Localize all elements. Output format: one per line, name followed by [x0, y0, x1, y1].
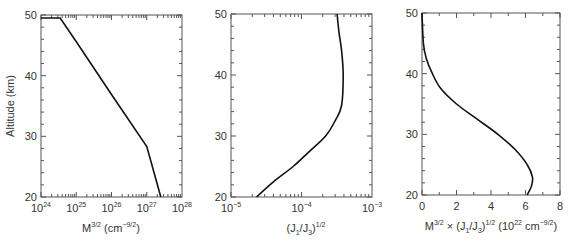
y-tick-label: 50 [406, 7, 418, 19]
panel-1-x-tick-labels: 10241025102610271028 [31, 201, 192, 214]
x-tick-label: 10−3 [362, 201, 382, 214]
x-tick-label: 0 [419, 200, 425, 212]
y-tick-label: 50 [25, 9, 37, 21]
y-axis-title: Altitude (km) [4, 75, 16, 137]
panel-2-x-axis-title: (J1/J3)1/2 [287, 221, 326, 236]
panel-3-frame [422, 13, 560, 195]
panel-3-y-tick-labels: 20304050 [406, 7, 418, 201]
panel-2-ticks [231, 14, 372, 197]
x-tick-label: 10−5 [221, 201, 241, 214]
x-tick-label: 1024 [31, 201, 51, 214]
x-tick-label: 2 [453, 200, 459, 212]
panel-1-frame [41, 15, 182, 197]
y-tick-label: 30 [25, 130, 37, 142]
panel-1-mass-plot: 20304050 10241025102610271028 Altitude (… [4, 9, 192, 234]
panel-2-y-tick-labels: 20304050 [215, 8, 227, 203]
x-tick-label: 1027 [137, 201, 157, 214]
x-tick-label: 1028 [172, 201, 192, 214]
x-tick-label: 4 [488, 200, 494, 212]
panel-2-x-tick-labels: 10−510−410−3 [221, 201, 382, 214]
panel-1-x-axis-title: M3/2 (cm−9/2) [82, 221, 140, 234]
x-tick-label: 1025 [66, 201, 86, 214]
x-tick-label: 1026 [101, 201, 121, 214]
panel-3-product-plot: 20304050 02468 M3/2 × (J1/J3)1/2 (1022 c… [406, 7, 563, 234]
panel-2-frame [231, 14, 372, 197]
panel-3-x-tick-labels: 02468 [419, 200, 563, 212]
panel-3-x-axis-title: M3/2 × (J1/J3)1/2 (1022 cm−9/2) [425, 219, 557, 234]
panel-3-curve [422, 13, 533, 195]
y-tick-label: 50 [215, 8, 227, 20]
y-tick-label: 40 [25, 70, 37, 82]
panel-1-y-tick-labels: 20304050 [25, 9, 37, 203]
x-tick-label: 8 [557, 200, 563, 212]
panel-2-curve [257, 14, 344, 197]
panel-1-curve [41, 18, 161, 197]
x-tick-label: 6 [522, 200, 528, 212]
y-tick-label: 20 [406, 189, 418, 201]
chart-figure: 20304050 10241025102610271028 Altitude (… [0, 0, 569, 243]
y-tick-label: 40 [215, 69, 227, 81]
y-tick-label: 30 [215, 130, 227, 142]
y-tick-label: 40 [406, 68, 418, 80]
panel-2-ratio-plot: 20304050 10−510−410−3 (J1/J3)1/2 [215, 8, 382, 236]
panel-3-ticks [422, 13, 560, 195]
panel-1-ticks [41, 15, 182, 197]
y-tick-label: 30 [406, 128, 418, 140]
x-tick-label: 10−4 [291, 201, 311, 214]
